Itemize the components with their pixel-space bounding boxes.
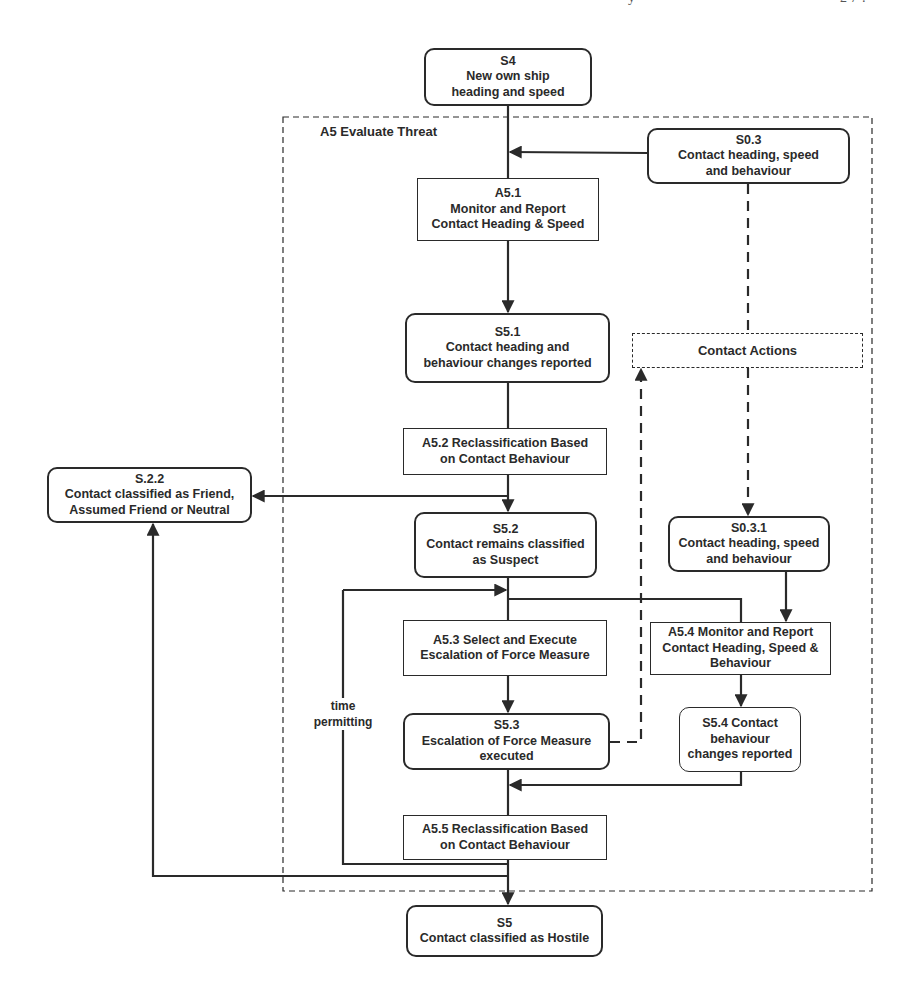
node-line: heading and speed [451, 85, 564, 101]
node-line: Contact classified as Friend, [65, 487, 235, 503]
node-line: S0.3 [736, 133, 762, 149]
node-line: Contact Actions [698, 343, 797, 359]
state-s5[interactable]: S5 Contact classified as Hostile [406, 905, 603, 957]
state-s0-3[interactable]: S0.3 Contact heading, speed and behaviou… [647, 128, 850, 184]
node-line: Contact Heading & Speed [432, 217, 585, 233]
node-line: Contact Heading, Speed & [662, 641, 818, 657]
node-line: changes reported [688, 747, 793, 763]
node-line: as Suspect [472, 553, 538, 569]
node-line: Escalation of Force Measure [422, 734, 592, 750]
node-line: Contact heading, speed [679, 536, 820, 552]
node-line: Contact remains classified [426, 537, 584, 553]
node-line: Contact heading and [446, 340, 570, 356]
state-s5-3[interactable]: S5.3 Escalation of Force Measure execute… [403, 713, 610, 770]
node-line: and behaviour [706, 552, 791, 568]
node-line: S5.1 [495, 325, 521, 341]
node-line: S4 [500, 54, 515, 70]
edge-label-line: time [308, 698, 378, 714]
node-line: S5.4 Contact [702, 716, 778, 732]
activity-a5-4[interactable]: A5.4 Monitor and Report Contact Heading,… [650, 622, 831, 675]
node-line: New own ship [466, 69, 549, 85]
activity-a5-1[interactable]: A5.1 Monitor and Report Contact Heading … [417, 178, 599, 241]
state-s2-2[interactable]: S.2.2 Contact classified as Friend, Assu… [47, 467, 252, 523]
node-line: executed [479, 749, 533, 765]
state-s5-1[interactable]: S5.1 Contact heading and behaviour chang… [405, 313, 610, 383]
node-line: Escalation of Force Measure [420, 648, 590, 664]
edge-label-line: permitting [308, 714, 378, 730]
state-s5-4[interactable]: S5.4 Contact behaviour changes reported [679, 707, 801, 772]
activity-a5-2[interactable]: A5.2 Reclassification Based on Contact B… [403, 428, 607, 475]
node-line: A5.2 Reclassification Based [422, 436, 588, 452]
node-line: S.2.2 [135, 472, 164, 488]
node-line: S5.2 [493, 522, 519, 538]
node-line: S5.3 [494, 718, 520, 734]
page-header-fragment-right: 2 7 ? [840, 0, 867, 6]
state-s0-3-1[interactable]: S0.3.1 Contact heading, speed and behavi… [668, 516, 830, 572]
edge-label-time-permitting: time permitting [308, 698, 378, 730]
activity-a5-5[interactable]: A5.5 Reclassification Based on Contact B… [403, 815, 607, 860]
node-line: and behaviour [706, 164, 791, 180]
node-line: A5.3 Select and Execute [433, 633, 577, 649]
state-s5-2[interactable]: S5.2 Contact remains classified as Suspe… [414, 512, 597, 578]
node-line: behaviour changes reported [423, 356, 591, 372]
node-line: behaviour [710, 732, 770, 748]
activity-a5-3[interactable]: A5.3 Select and Execute Escalation of Fo… [403, 620, 607, 676]
contact-actions-box[interactable]: Contact Actions [632, 333, 863, 368]
container-title: A5 Evaluate Threat [320, 124, 437, 140]
node-line: Contact classified as Hostile [420, 931, 590, 947]
page-header-fragment-left: y [628, 0, 635, 6]
node-line: on Contact Behaviour [440, 838, 570, 854]
node-line: A5.1 [495, 186, 521, 202]
node-line: A5.4 Monitor and Report [668, 625, 813, 641]
state-s4[interactable]: S4 New own ship heading and speed [424, 48, 592, 106]
node-line: on Contact Behaviour [440, 452, 570, 468]
node-line: A5.5 Reclassification Based [422, 822, 588, 838]
node-line: Contact heading, speed [678, 148, 819, 164]
node-line: S5 [497, 916, 512, 932]
node-line: Monitor and Report [450, 202, 565, 218]
node-line: S0.3.1 [731, 521, 767, 537]
node-line: Behaviour [710, 656, 771, 672]
node-line: Assumed Friend or Neutral [69, 503, 229, 519]
